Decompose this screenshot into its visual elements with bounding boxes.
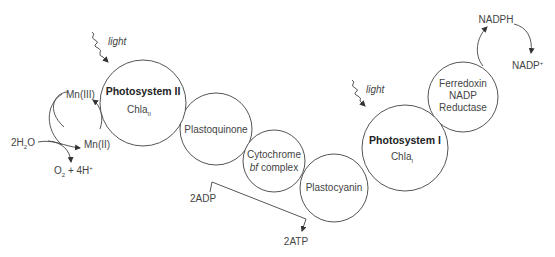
photosystem-ii-label: Photosystem II [106, 85, 181, 97]
cytochrome-label-line1: Cytochrome [247, 149, 301, 160]
adp-to-atp-arrow [210, 182, 306, 231]
water-to-oxygen-arrow [48, 141, 71, 162]
nadph-to-nadp-arrow [514, 24, 531, 53]
plastoquinone-label: Plastoquinone [184, 124, 248, 135]
photosystem-i-node [362, 105, 448, 191]
adp-label: 2ADP [190, 193, 216, 204]
atp-label: 2ATP [284, 236, 309, 247]
cytochrome-label-line2: bf complex [250, 162, 298, 173]
photosystem-i-label: Photosystem I [369, 134, 441, 146]
mn-cycle-left-descend [49, 94, 62, 145]
plastocyanin-label: Plastocyanin [306, 182, 363, 193]
mn3-label: Mn(III) [66, 89, 95, 100]
ferredoxin-label-line2: NADP [449, 90, 477, 101]
light-wave-icon-ps1 [352, 80, 365, 106]
oxygen-protons-label: O2 + 4H+ [54, 165, 93, 178]
light-wave-icon-ps2 [92, 32, 108, 62]
light-label-ps1: light [366, 84, 386, 95]
mn2-label: Mn(II) [84, 139, 110, 150]
nadp-label: NADP+ [512, 60, 544, 71]
nadp-to-nadph-arrow [477, 27, 487, 66]
ferredoxin-label-line3: Reductase [439, 102, 487, 113]
photosystem-ii-node [100, 60, 186, 146]
ferredoxin-label-line1: Ferredoxin [439, 78, 487, 89]
nadph-label: NADPH [478, 14, 513, 25]
water-label: 2H2O [11, 137, 35, 150]
electron-transport-diagram: light Photosystem II ChlaII Mn(III) Mn(I… [0, 0, 555, 257]
cytochrome-bf-node [243, 130, 305, 192]
light-label-ps2: light [108, 36, 128, 47]
